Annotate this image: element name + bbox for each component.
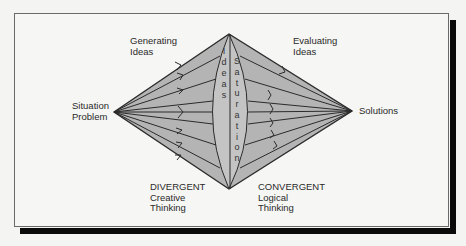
lens-word-ideas: I d e a s	[219, 46, 229, 101]
label-situation-problem: Situation Problem	[72, 101, 109, 122]
label-convergent-logical-thinking: CONVERGENT Logical Thinking	[258, 182, 325, 214]
lens-word-saturation: S a t u r a t i o n	[232, 56, 242, 164]
label-evaluating-ideas: Evaluating Ideas	[293, 36, 337, 57]
label-solutions: Solutions	[359, 106, 398, 117]
label-divergent-creative-thinking: DIVERGENT Creative Thinking	[150, 182, 205, 214]
label-generating-ideas: Generating Ideas	[130, 36, 177, 57]
